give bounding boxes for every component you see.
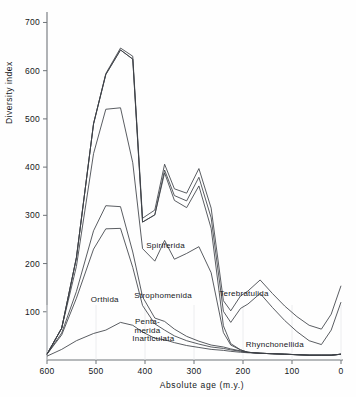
- y-tick-label-300: 300: [25, 210, 40, 220]
- figure-brachiopod-diversity: Diversity index 100200300400500600700600…: [0, 0, 356, 397]
- y-tick-label-500: 500: [25, 114, 40, 124]
- y-tick-label-700: 700: [25, 17, 40, 27]
- series-label-inarticulata: Inarticulata: [132, 334, 174, 343]
- x-tick-label-500: 500: [88, 366, 103, 376]
- figure-caption: [0, 385, 356, 397]
- y-tick-label-400: 400: [25, 162, 40, 172]
- x-tick-label-100: 100: [284, 366, 299, 376]
- y-tick-label-100: 100: [25, 307, 40, 317]
- series-label-penta-merida: Penta-merida: [134, 317, 160, 335]
- x-tick-label-300: 300: [186, 366, 201, 376]
- y-tick-label-200: 200: [25, 259, 40, 269]
- y-tick-label-600: 600: [25, 66, 40, 76]
- x-tick-label-200: 200: [235, 366, 250, 376]
- series-label-rhynchonellida: Rhynchonellida: [246, 340, 305, 349]
- x-tick-label-400: 400: [137, 366, 152, 376]
- series-label-spiriferida: Spiriferida: [146, 241, 185, 250]
- series-label-strophomenida: Strophomenida: [134, 291, 192, 300]
- series-label-orthida: Orthida: [91, 295, 119, 304]
- chart-canvas: 1002003004005006007006005004003002001000…: [0, 0, 356, 397]
- x-tick-label-600: 600: [39, 366, 54, 376]
- series-label-terebratulida: Terebratulida: [219, 289, 269, 298]
- x-tick-label-0: 0: [338, 366, 343, 376]
